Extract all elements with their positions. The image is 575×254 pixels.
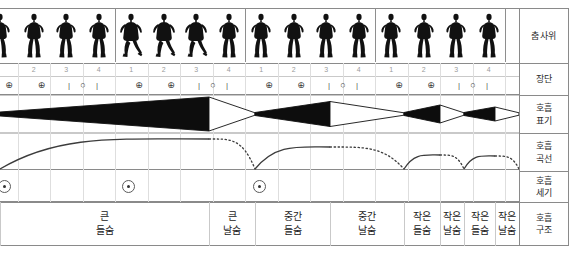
row-label-structure: 호흡 구조 [519,202,569,246]
grid-vline [278,76,279,95]
beat-number: 1 [115,63,148,76]
structure-label-line2: 날숨 [443,224,461,239]
structure-cell: 큰날숨 [209,202,255,246]
grid-vline [505,63,506,76]
row-label-dance: 춤사위 [519,8,569,63]
rhythm-symbol-strong: ⊕ [392,76,406,95]
grid-vline [310,76,311,95]
row-label-curve-line2: 곡선 [536,153,553,165]
rhythm-symbol-bar: | [223,76,231,95]
inhale-curve [0,139,209,169]
structure-cell: 큰들숨 [0,202,209,246]
rhythm-symbol-bar: | [353,76,361,95]
beat-number: 4 [83,63,116,76]
row-label-curve: 호흡 곡선 [519,133,569,171]
exhale-curve [495,156,519,169]
structure-label-line1: 작은 [413,210,431,225]
structure-label-line1: 큰 [100,210,109,225]
dancer-figure-icon [183,12,209,62]
structure-label-line2: 들숨 [471,224,489,239]
row-label-notation: 호흡 표기 [519,95,569,133]
dancer-figure-icon [216,12,242,62]
row-label-structure-line1: 호흡 [536,212,553,224]
exhale-wedge [495,107,519,121]
structure-cell: 작은들숨 [404,202,440,246]
grid-vline [375,8,376,62]
row-label-dance-text: 춤사위 [531,30,556,42]
grid-vline [115,8,116,62]
row-label-strength: 호흡 세기 [519,171,569,202]
rhythm-symbol-open: ○ [77,76,89,95]
dancer-figure-icon [443,12,469,62]
exhale-curve [330,147,404,169]
grid-vline [180,171,181,202]
grid-vline [310,171,311,202]
structure-label-line2: 날숨 [358,224,376,239]
breath-notation-chart: 춤사위 234123412341234 ⊕⊕|○|⊕⊕|○|⊕⊕|○|⊕⊕|○|… [0,0,575,254]
rhythm-symbol-bar: | [93,76,101,95]
inhale-wedge [255,102,330,127]
beat-number: 3 [50,63,83,76]
structure-label-line1: 작은 [498,210,516,225]
grid-vline [505,171,506,202]
grid-vline [343,171,344,202]
exhale-wedge [440,105,464,123]
structure-label-line2: 날숨 [223,224,241,239]
row-label-notation-line2: 표기 [536,115,553,127]
structure-cell: 작은들숨 [464,202,495,246]
row-label-strength-line2: 세기 [536,187,553,199]
breath-curve-arcs [0,133,519,171]
grid-vline [408,171,409,202]
dancer-figure-icon [248,12,274,62]
breath-structure-row: 큰들숨큰날숨중간들숨중간날숨작은들숨작은날숨작은들숨작은날숨 [0,202,519,246]
rhythm-symbol-open: ○ [337,76,349,95]
breath-strength-row [0,171,519,202]
rhythm-symbol-bar: | [195,76,203,95]
grid-vline [245,171,246,202]
structure-cell: 작은날숨 [495,202,519,246]
rhythm-symbol-strong: ⊕ [164,76,178,95]
beat-number: 3 [180,63,213,76]
beat-number: 3 [440,63,473,76]
rhythm-symbol-bar: | [455,76,463,95]
row-label-structure-line2: 구조 [536,224,553,236]
row-label-rhythm-text: 장단 [536,73,553,85]
structure-label-line1: 중간 [358,210,376,225]
grid-vline [83,171,84,202]
structure-cell: 작은날숨 [440,202,464,246]
beat-number: 2 [408,63,441,76]
dancer-figure-icon [118,12,144,62]
breath-curve-row [0,133,519,171]
grid-vline [440,171,441,202]
grid-vline [115,76,116,95]
grid-vline [50,76,51,95]
structure-cell: 중간날숨 [330,202,404,246]
structure-cell: 중간들숨 [255,202,330,246]
row-label-curve-line1: 호흡 [536,140,553,152]
grid-hline [0,8,519,9]
rhythm-row: ⊕⊕|○|⊕⊕|○|⊕⊕|○|⊕⊕|○| [0,76,519,95]
grid-vline [278,171,279,202]
breath-notation-row [0,95,519,133]
beat-number: 1 [375,63,408,76]
grid-vline [148,171,149,202]
inhale-wedge [0,97,209,131]
breath-strength-marker-icon [0,180,11,193]
grid-vline [213,171,214,202]
grid-vline [50,171,51,202]
beat-number: 3 [310,63,343,76]
grid-vline [245,8,246,62]
beat-number: 4 [343,63,376,76]
beat-number: 2 [18,63,51,76]
rhythm-symbol-strong: ⊕ [424,76,438,95]
row-label-notation-line1: 호흡 [536,102,553,114]
beat-number-row: 234123412341234 [0,63,519,76]
grid-vline [505,8,506,62]
exhale-wedge [330,102,404,127]
dancer-figure-icon [151,12,177,62]
dancer-figure-icon [0,12,13,62]
rhythm-symbol-open: ○ [207,76,219,95]
beat-number: 2 [148,63,181,76]
breath-strength-marker-icon [253,180,266,193]
grid-vline [148,76,149,95]
